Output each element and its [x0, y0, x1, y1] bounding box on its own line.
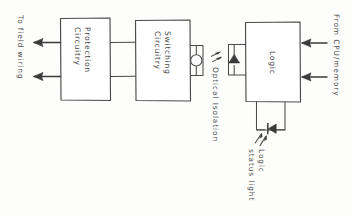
optical-isolation-label: Optical Isolation	[211, 67, 219, 142]
protection-circuitry-label-line1: Protection	[82, 27, 92, 73]
light-rays-isolation-icon	[212, 52, 222, 62]
cpu-input-top-arrowhead	[302, 39, 312, 47]
isolation-led-icon	[230, 54, 239, 62]
switching-circuitry-label-line2: Circuitry	[152, 31, 162, 75]
diagram-root: Protection Circuitry Switching Circuitry…	[0, 0, 352, 216]
status-led-loop	[257, 102, 286, 130]
field-output-top-arrowhead	[34, 38, 44, 46]
protection-circuitry-label-line2: Circuitry	[72, 27, 82, 73]
field-wiring-label: To field wiring	[16, 15, 24, 80]
logic-status-light-label-line1: Logic	[256, 149, 266, 201]
status-led-icon	[268, 124, 276, 133]
light-rays-status-icon	[255, 133, 267, 145]
photodetector-icon	[191, 55, 202, 66]
field-output-bottom-arrowhead	[34, 72, 44, 80]
logic-label-line1: Logic	[268, 51, 276, 75]
logic-status-light-label-line2: status light	[246, 149, 256, 201]
switching-circuitry-label: Switching Circuitry	[152, 31, 173, 75]
cpu-memory-label: From CPU/memory	[332, 14, 340, 97]
logic-status-light-label: Logic status light	[246, 149, 266, 201]
diagram-canvas	[0, 0, 352, 216]
cpu-input-bottom-arrowhead	[302, 73, 312, 81]
protection-circuitry-label: Protection Circuitry	[72, 27, 93, 73]
logic-label: Logic	[268, 51, 276, 75]
switching-circuitry-label-line1: Switching	[162, 31, 172, 75]
